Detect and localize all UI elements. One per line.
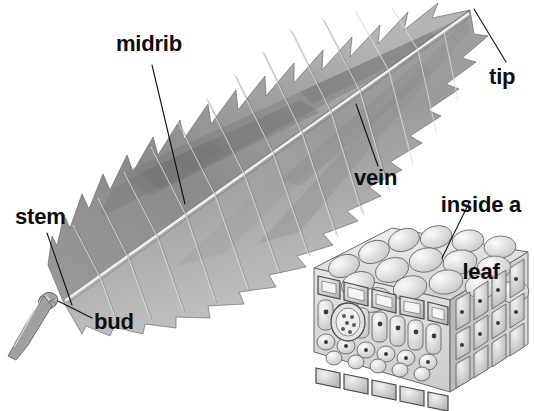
label-vein: vein — [354, 167, 397, 189]
leaf-diagram-figure: midrib tip vein stem bud inside a leaf — [0, 0, 534, 411]
leaf-stem — [8, 296, 52, 360]
vascular-bundle — [331, 303, 365, 341]
label-stem: stem — [15, 206, 66, 228]
label-bud: bud — [94, 311, 134, 333]
label-inside-a-leaf: inside a leaf — [438, 149, 524, 329]
label-inside-a-leaf-line2: leaf — [438, 261, 524, 283]
label-midrib: midrib — [116, 33, 182, 55]
label-tip: tip — [489, 66, 515, 88]
label-inside-a-leaf-line1: inside a — [438, 194, 524, 216]
